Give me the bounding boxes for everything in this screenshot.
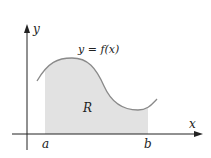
region-r-fill: [37, 58, 157, 134]
region-label: R: [82, 101, 92, 115]
diagram-canvas: y x y = f(x) R a b: [0, 0, 211, 158]
lower-bound-label: a: [42, 137, 49, 151]
function-label: y = f(x): [77, 43, 119, 56]
y-axis-label: y: [32, 22, 40, 36]
upper-bound-label: b: [144, 137, 152, 151]
area-under-curve-diagram: y x y = f(x) R a b: [0, 0, 211, 158]
y-axis-arrow-icon: [24, 24, 30, 33]
x-axis-arrow-icon: [194, 131, 203, 137]
x-axis-label: x: [189, 117, 196, 131]
